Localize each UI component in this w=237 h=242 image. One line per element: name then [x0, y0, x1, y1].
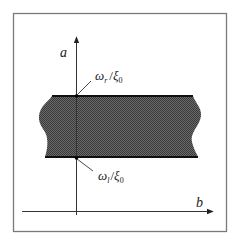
upper-boundary-label: ωr/ξ0: [95, 68, 123, 85]
lower-boundary-label: ωl/ξ0: [98, 168, 124, 185]
horizontal-axis-label: b: [196, 195, 203, 210]
upper-label-leader: [77, 81, 91, 95]
lower-label-leader: [77, 159, 93, 171]
vertical-axis-label: a: [60, 45, 67, 60]
shaded-band: [39, 96, 201, 157]
diagram-canvas: a b ωr/ξ0 ωl/ξ0: [0, 0, 237, 242]
